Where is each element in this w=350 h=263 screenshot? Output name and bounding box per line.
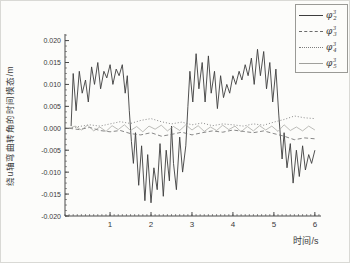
- y-axis-title: 绕u轴弯曲转角的时间模态/m: [3, 41, 17, 211]
- x-tick-label: 2: [149, 220, 154, 229]
- legend-label: φ34: [326, 43, 337, 52]
- x-tick-label: 6: [313, 220, 318, 229]
- y-tick-label: -0.005: [41, 147, 61, 154]
- legend-line-sample: [299, 63, 323, 64]
- y-tick-label: 0.015: [43, 59, 61, 66]
- legend-label: φ33: [326, 27, 337, 36]
- legend-item-4: φ35: [299, 55, 345, 71]
- y-tick-label: -0.020: [41, 213, 61, 220]
- series-line-2: [69, 127, 315, 139]
- y-tick-label: 0.010: [43, 81, 61, 88]
- y-tick-label: -0.015: [41, 191, 61, 198]
- series-line-3: [69, 116, 315, 128]
- y-tick-label: -0.010: [41, 169, 61, 176]
- legend-item-2: φ33: [299, 23, 345, 39]
- series-line-1: [71, 49, 315, 203]
- legend-line-sample: [299, 31, 323, 32]
- legend-item-1: φ32: [299, 7, 345, 23]
- y-tick-label: 0.020: [43, 37, 61, 44]
- x-tick-label: 4: [231, 220, 236, 229]
- legend-line-sample: [299, 15, 323, 16]
- series-line-4: [69, 125, 315, 132]
- legend-line-sample: [299, 47, 323, 48]
- legend-item-3: φ34: [299, 39, 345, 55]
- legend-label: φ35: [326, 59, 337, 68]
- legend-label: φ32: [326, 11, 337, 20]
- x-tick-label: 5: [272, 220, 277, 229]
- x-tick-label: 1: [108, 220, 113, 229]
- x-tick-label: 3: [190, 220, 195, 229]
- y-tick-label: 0.000: [43, 125, 61, 132]
- chart-figure: 1234560.0200.0150.0100.0050.000-0.005-0.…: [0, 0, 350, 263]
- y-tick-label: 0.005: [43, 103, 61, 110]
- legend-box: φ32φ33φ34φ35: [295, 4, 348, 73]
- x-axis-title: 时间/s: [283, 234, 329, 247]
